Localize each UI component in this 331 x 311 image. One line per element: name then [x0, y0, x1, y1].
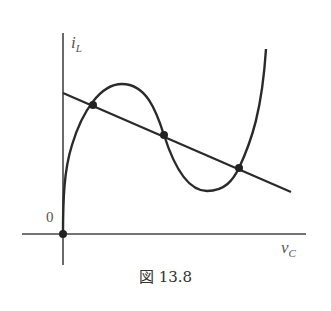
load-line	[63, 93, 291, 192]
x-axis-label-main: v	[281, 238, 289, 257]
figure-caption: 図 13.8	[0, 265, 331, 286]
characteristic-curve	[63, 49, 266, 234]
intersection-points	[59, 101, 243, 238]
intersection-point	[160, 131, 168, 139]
y-axis-label-sub: L	[76, 42, 82, 54]
x-axis-label-sub: C	[289, 247, 296, 259]
intersection-point	[235, 164, 243, 172]
y-axis-label: iL	[71, 33, 82, 54]
intersection-point	[89, 101, 97, 109]
origin-label: 0	[46, 209, 54, 226]
x-axis-label: vC	[281, 238, 296, 259]
intersection-point	[59, 230, 67, 238]
